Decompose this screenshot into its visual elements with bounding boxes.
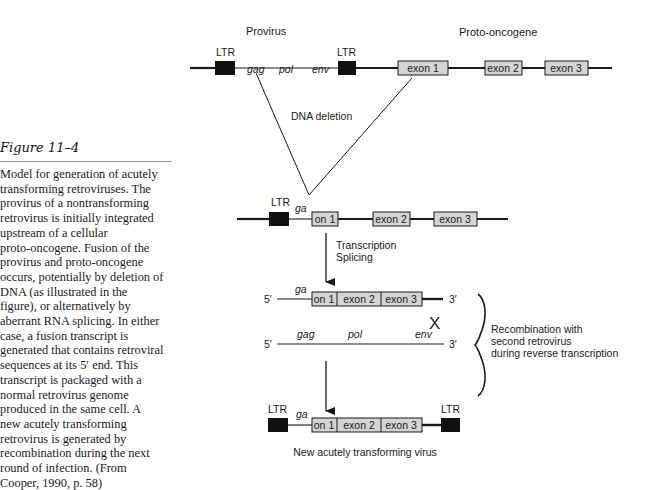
exon-2-label: exon 2 — [487, 62, 519, 74]
caption-line: Cooper, 1990, p. 58) — [0, 476, 176, 490]
transcription-label: Transcription — [336, 239, 396, 251]
ltr-label: LTR — [271, 196, 290, 208]
env-label: env — [312, 63, 330, 75]
five-prime-label: 5′ — [264, 338, 272, 350]
exon-3-label: exon 3 — [439, 213, 471, 225]
exon-3-label: exon 3 — [550, 62, 582, 74]
dna-deletion-label: DNA deletion — [291, 110, 352, 122]
ltr-box-left — [215, 61, 235, 75]
second-retrovirus-row: 5′ gag pol env 3′ — [264, 328, 457, 350]
ga-label: ga — [296, 408, 308, 420]
env-label: env — [415, 328, 433, 340]
pol-label: pol — [347, 328, 363, 340]
new-virus-label: New acutely transforming virus — [293, 446, 437, 458]
ltr-box-right — [338, 61, 356, 75]
deletion-triangle: DNA deletion — [256, 73, 412, 195]
three-prime-label: 3′ — [449, 338, 457, 350]
ltr-box — [269, 212, 289, 226]
fused-dna-row: LTR ga on 1 exon 2 exon 3 — [237, 196, 508, 226]
ltr-label: LTR — [441, 403, 460, 415]
on-1-label: on 1 — [315, 213, 336, 225]
ltr-label: LTR — [268, 403, 287, 415]
five-prime-label: 5′ — [264, 293, 272, 305]
new-virus-row: LTR ga on 1 exon 2 exon 3 LTR New acutel… — [268, 403, 460, 458]
splicing-label: Splicing — [336, 251, 373, 263]
exon-3-label: exon 3 — [385, 293, 417, 305]
three-prime-label: 3′ — [449, 293, 457, 305]
exon-2-label: exon 2 — [375, 213, 407, 225]
recombination-line: during reverse transcription — [491, 347, 618, 359]
fusion-transcript-row: 5′ ga on 1 exon 2 exon 3 3′ — [264, 283, 457, 306]
brace — [475, 294, 485, 396]
provirus-label: Provirus — [246, 25, 287, 37]
protooncogene-label: Proto-oncogene — [459, 26, 537, 38]
exon-2-label: exon 2 — [343, 293, 375, 305]
provirus-protooncogene-row: Provirus Proto-oncogene LTR gag pol env … — [190, 25, 612, 75]
exon-3-label: exon 3 — [385, 419, 417, 431]
pol-label: pol — [278, 63, 294, 75]
gag-label: gag — [297, 328, 315, 340]
recombination-line: Recombination with — [491, 323, 583, 335]
recombination-line: second retrovirus — [491, 335, 572, 347]
ga-label: ga — [295, 283, 307, 295]
ltr-label: LTR — [216, 46, 235, 58]
on-1-label: on 1 — [314, 419, 335, 431]
ltr-box-left — [268, 418, 288, 432]
exon-1-label: exon 1 — [407, 62, 439, 74]
ltr-label: LTR — [337, 46, 356, 58]
exon-2-label: exon 2 — [343, 419, 375, 431]
on-1-label: on 1 — [314, 293, 335, 305]
ltr-box-right — [441, 418, 460, 432]
ga-label: ga — [295, 202, 307, 214]
